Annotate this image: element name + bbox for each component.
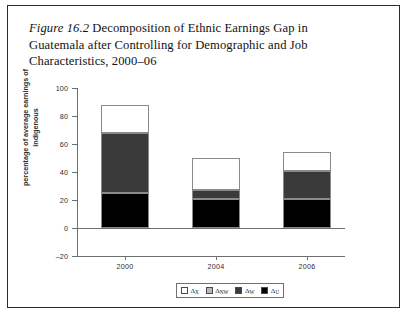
y-tick-label-20: 20 xyxy=(28,196,68,205)
y-tick-label-0: 0 xyxy=(28,224,68,233)
y-tick-label-40: 40 xyxy=(28,168,68,177)
bar-segment-2000-Δ_W[interactable] xyxy=(101,133,149,193)
y-tick-40 xyxy=(72,172,77,173)
y-tick-20 xyxy=(72,200,77,201)
legend-swatch-W xyxy=(235,287,242,294)
bar-segment-2006-Δ_U[interactable] xyxy=(283,199,331,228)
legend-label-NW: ΔNW xyxy=(215,287,228,295)
bar-segment-2004-Δ_U[interactable] xyxy=(192,199,240,228)
y-tick-label--20: –20 xyxy=(28,252,68,261)
bar-segment-2006-Δ_W[interactable] xyxy=(283,171,331,199)
bar-segment-2004-Δ_W[interactable] xyxy=(192,190,240,198)
bar-segment-2000-Δ_U[interactable] xyxy=(101,193,149,228)
y-tick-label-80: 80 xyxy=(28,112,68,121)
legend-entry-W[interactable]: ΔW xyxy=(235,287,254,295)
legend-entry-NW[interactable]: ΔNW xyxy=(206,287,229,295)
y-tick-label-100: 100 xyxy=(28,84,68,93)
bar-segment-2004-Δ_X[interactable] xyxy=(192,158,240,190)
legend-label-W: ΔW xyxy=(245,287,254,295)
legend-swatch-U xyxy=(261,287,268,294)
chart-plot-area: percentage of average earnings of indige… xyxy=(0,0,409,316)
y-axis-line xyxy=(77,88,78,256)
legend-label-U: ΔU xyxy=(271,287,279,295)
y-tick-80 xyxy=(72,116,77,117)
legend-entry-X[interactable]: ΔX xyxy=(181,287,199,295)
y-tick-label-60: 60 xyxy=(28,140,68,149)
bar-group-2000[interactable] xyxy=(101,0,149,316)
bar-group-2004[interactable] xyxy=(192,0,240,316)
chart-legend: ΔXΔNWΔWΔU xyxy=(176,283,284,298)
bar-segment-2000-Δ_X[interactable] xyxy=(101,105,149,133)
legend-swatch-NW xyxy=(206,287,213,294)
legend-swatch-X xyxy=(181,287,188,294)
legend-entry-U[interactable]: ΔU xyxy=(261,287,279,295)
y-tick-60 xyxy=(72,144,77,145)
y-tick--20 xyxy=(72,256,77,257)
y-tick-0 xyxy=(72,228,77,229)
legend-label-X: ΔX xyxy=(191,287,199,295)
y-tick-100 xyxy=(72,88,77,89)
bar-group-2006[interactable] xyxy=(283,0,331,316)
bar-segment-2006-Δ_X[interactable] xyxy=(283,152,331,170)
